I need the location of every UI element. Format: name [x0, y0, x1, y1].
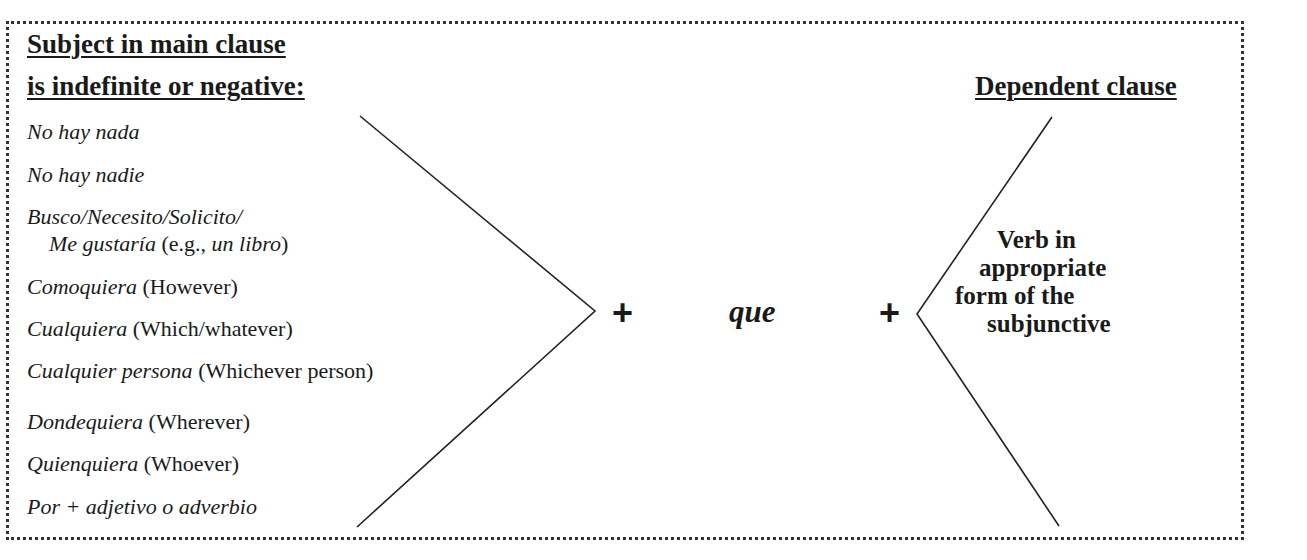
left-chevron-icon [357, 116, 595, 527]
verb-line: Verb in [955, 226, 1111, 254]
que-connector: que [729, 296, 776, 327]
verb-line: form of the [955, 282, 1111, 310]
plus-sign-2: + [879, 295, 900, 331]
verb-line: subjunctive [955, 310, 1111, 338]
verb-line: appropriate [955, 254, 1111, 282]
verb-description: Verb in appropriate form of the subjunct… [955, 226, 1111, 338]
chevron-lines [0, 0, 1307, 560]
plus-sign-1: + [612, 295, 633, 331]
